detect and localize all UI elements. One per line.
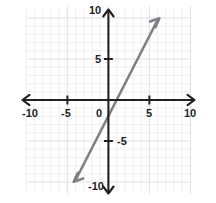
x-label-pos-five: 5 bbox=[146, 107, 152, 119]
coordinate-graph: -10 -5 0 5 10 10 5 -5 -10 bbox=[0, 0, 216, 203]
x-label-pos-ten: 10 bbox=[184, 107, 196, 119]
x-label-neg-ten: -10 bbox=[22, 107, 38, 119]
y-label-neg-five: -5 bbox=[117, 135, 127, 147]
origin-label: 0 bbox=[96, 107, 102, 119]
x-label-neg-five: -5 bbox=[61, 107, 71, 119]
y-label-neg-ten: -10 bbox=[88, 180, 104, 192]
y-label-pos-five: 5 bbox=[95, 53, 101, 65]
graph-canvas: -10 -5 0 5 10 10 5 -5 -10 bbox=[0, 0, 216, 203]
y-label-pos-ten: 10 bbox=[89, 4, 101, 16]
